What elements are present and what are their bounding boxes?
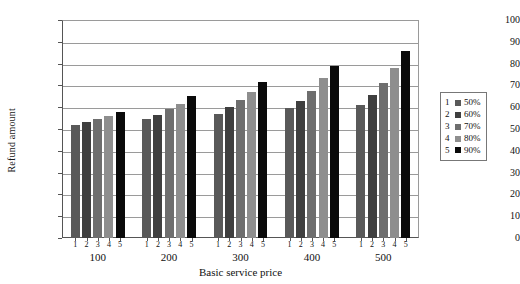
legend-item: 480%: [445, 133, 481, 145]
x-axis-tick-mark: [109, 238, 110, 241]
x-axis-sub-label: 3: [93, 241, 103, 249]
legend-swatch-icon: [455, 100, 461, 106]
x-axis-sub-label: 3: [236, 241, 246, 249]
x-axis-sub-label: 4: [104, 241, 114, 249]
legend-item-key: 5: [445, 145, 452, 157]
x-axis-tick-mark: [75, 238, 76, 241]
x-axis-tick-mark: [147, 238, 148, 241]
x-axis-tick-mark: [323, 238, 324, 241]
y-axis-ticks: [0, 20, 62, 238]
legend-item-key: 4: [445, 133, 452, 145]
y-axis-tick-label: 40: [492, 146, 520, 156]
x-axis-sub-label: 1: [285, 241, 295, 249]
x-axis-tick-mark: [372, 238, 373, 241]
x-axis-tick-mark: [252, 238, 253, 241]
legend-item-key: 1: [445, 97, 452, 109]
gridline: [63, 174, 418, 175]
x-axis-sub-label: 2: [153, 241, 163, 249]
x-axis-sub-label: 5: [329, 241, 339, 249]
y-axis-tick-label: 0: [492, 233, 520, 243]
bar-chart: Refund amount Basic service price 150%26…: [0, 0, 520, 284]
legend-swatch-icon: [455, 136, 461, 142]
x-axis-sub-label: 1: [213, 241, 223, 249]
x-axis-tick-mark: [120, 238, 121, 241]
x-axis-sub-label: 5: [115, 241, 125, 249]
legend-swatch-icon: [455, 112, 461, 118]
legend-item: 260%: [445, 109, 481, 121]
x-axis-sub-label: 2: [296, 241, 306, 249]
x-axis-group-label: 400: [282, 252, 342, 263]
x-axis-tick-mark: [383, 238, 384, 241]
x-axis-tick-mark: [406, 238, 407, 241]
x-axis-sub-label: 4: [247, 241, 257, 249]
gridline: [63, 152, 418, 153]
x-axis-sub-label: 4: [318, 241, 328, 249]
x-axis-tick-mark: [312, 238, 313, 241]
plot-area: [62, 20, 419, 238]
x-axis-sub-label: 2: [367, 241, 377, 249]
x-axis-tick-mark: [192, 238, 193, 241]
x-axis-tick-mark: [158, 238, 159, 241]
legend-item-label: 80%: [464, 133, 481, 145]
y-axis-tick-label: 90: [492, 37, 520, 47]
x-axis-sub-label: 2: [224, 241, 234, 249]
legend-swatch-icon: [455, 124, 461, 130]
y-axis-tick-label: 60: [492, 102, 520, 112]
x-axis-sub-label: 3: [307, 241, 317, 249]
y-axis-tick-label: 80: [492, 59, 520, 69]
legend-swatch-icon: [455, 147, 461, 153]
x-axis-tick-mark: [301, 238, 302, 241]
legend: 150%260%370%480%590%: [440, 92, 487, 161]
x-axis-sub-label: 5: [187, 241, 197, 249]
y-axis-tick-label: 100: [492, 15, 520, 25]
gridline: [63, 65, 418, 66]
x-axis-tick-mark: [334, 238, 335, 241]
x-axis-tick-mark: [169, 238, 170, 241]
y-axis-tick-label: 10: [492, 211, 520, 221]
gridline: [63, 108, 418, 109]
x-axis-group-label: 200: [139, 252, 199, 263]
legend-item: 590%: [445, 145, 481, 157]
x-axis-tick-mark: [87, 238, 88, 241]
x-axis-tick-mark: [98, 238, 99, 241]
x-axis-group-label: 100: [68, 252, 128, 263]
gridline: [63, 86, 418, 87]
y-axis-tick-label: 70: [492, 80, 520, 90]
x-axis-sub-label: 1: [70, 241, 80, 249]
legend-item-key: 3: [445, 121, 452, 133]
x-axis-sub-label: 2: [82, 241, 92, 249]
x-axis-group-label: 300: [211, 252, 271, 263]
x-axis-tick-mark: [290, 238, 291, 241]
x-axis-tick-mark: [395, 238, 396, 241]
x-axis-sub-label: 1: [356, 241, 366, 249]
x-axis-title: Basic service price: [62, 266, 419, 278]
legend-item-label: 70%: [464, 121, 481, 133]
gridline: [63, 43, 418, 44]
gridline: [63, 130, 418, 131]
gridline: [63, 217, 418, 218]
x-axis-sub-label: 1: [142, 241, 152, 249]
x-axis-tick-mark: [180, 238, 181, 241]
x-axis-sub-label: 5: [258, 241, 268, 249]
y-axis-tick-label: 20: [492, 189, 520, 199]
x-axis-tick-mark: [361, 238, 362, 241]
x-axis-tick-mark: [218, 238, 219, 241]
legend-item: 370%: [445, 121, 481, 133]
x-axis-tick-mark: [263, 238, 264, 241]
x-axis-sub-label: 3: [164, 241, 174, 249]
x-axis-tick-mark: [241, 238, 242, 241]
x-axis-sub-label: 3: [378, 241, 388, 249]
legend-item: 150%: [445, 97, 481, 109]
y-axis-tick-label: 50: [492, 124, 520, 134]
legend-item-label: 90%: [464, 145, 481, 157]
gridline: [63, 195, 418, 196]
y-axis-tick-label: 30: [492, 168, 520, 178]
x-axis-sub-label: 4: [390, 241, 400, 249]
y-axis-tick-mark: [58, 238, 62, 239]
x-axis-sub-label: 5: [401, 241, 411, 249]
legend-item-key: 2: [445, 109, 452, 121]
legend-item-label: 50%: [464, 97, 481, 109]
x-axis-sub-label: 4: [175, 241, 185, 249]
legend-item-label: 60%: [464, 109, 481, 121]
x-axis-group-label: 500: [353, 252, 413, 263]
